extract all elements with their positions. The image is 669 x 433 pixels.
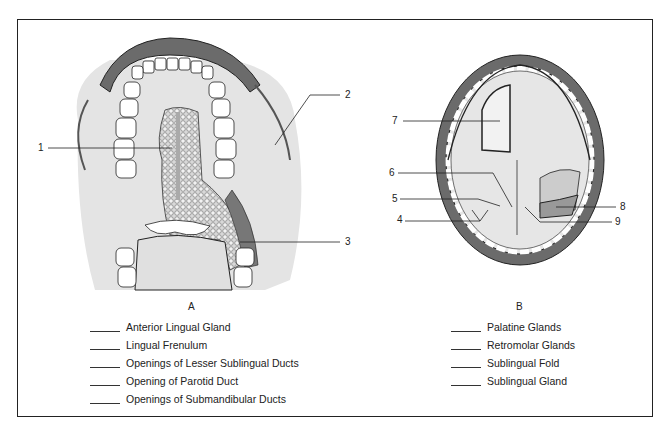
answer-key-item: Retromolar Glands	[451, 336, 575, 354]
figure-b-illustration	[398, 55, 616, 265]
answer-blank[interactable]	[451, 323, 481, 332]
answer-key-a: Anterior Lingual Gland Lingual Frenulum …	[90, 318, 299, 408]
callout-3: 3	[345, 236, 351, 247]
callout-7: 7	[392, 115, 398, 126]
answer-key-item: Openings of Lesser Sublingual Ducts	[90, 354, 299, 372]
answer-blank[interactable]	[451, 359, 481, 368]
answer-key-item: Sublingual Gland	[451, 372, 575, 390]
answer-blank[interactable]	[90, 341, 120, 350]
answer-key-item: Openings of Submandibular Ducts	[90, 390, 299, 408]
callout-4: 4	[397, 214, 403, 225]
answer-blank[interactable]	[90, 395, 120, 404]
callout-6: 6	[389, 167, 395, 178]
answer-key-item: Palatine Glands	[451, 318, 575, 336]
callout-8: 8	[620, 201, 626, 212]
figure-a-caption: A	[188, 301, 195, 312]
answer-blank[interactable]	[451, 377, 481, 386]
answer-blank[interactable]	[90, 377, 120, 386]
answer-key-item: Lingual Frenulum	[90, 336, 299, 354]
answer-blank[interactable]	[90, 359, 120, 368]
answer-key-item: Anterior Lingual Gland	[90, 318, 299, 336]
callout-9: 9	[615, 216, 621, 227]
callout-5: 5	[392, 193, 398, 204]
answer-key-item: Sublingual Fold	[451, 354, 575, 372]
answer-blank[interactable]	[451, 341, 481, 350]
figure-a-illustration	[48, 38, 340, 290]
figure-b-caption: B	[516, 301, 523, 312]
callout-1: 1	[38, 142, 44, 153]
answer-key-item: Opening of Parotid Duct	[90, 372, 299, 390]
answer-key-b: Palatine Glands Retromolar Glands Sublin…	[451, 318, 575, 390]
answer-blank[interactable]	[90, 323, 120, 332]
callout-2: 2	[345, 89, 351, 100]
